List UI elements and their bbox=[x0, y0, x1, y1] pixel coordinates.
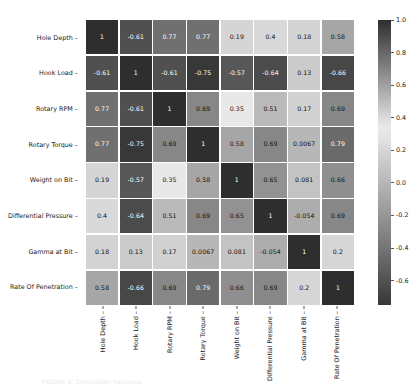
heatmap-cell: 0.18 bbox=[288, 20, 320, 54]
colorbar-tick: -0.2 bbox=[391, 211, 408, 219]
heatmap-cell: 0.69 bbox=[254, 127, 286, 161]
x-axis-tick: Gamma at Bit – bbox=[287, 306, 321, 374]
x-axis-tick-mark bbox=[102, 306, 103, 309]
x-axis-tick-mark bbox=[270, 306, 271, 309]
heatmap-cell: 0.79 bbox=[187, 271, 219, 305]
heatmap-cell: 0.69 bbox=[153, 271, 185, 305]
heatmap-cell: -0.64 bbox=[254, 56, 286, 90]
colorbar-tick-mark bbox=[391, 215, 394, 216]
colorbar-tick-mark bbox=[391, 117, 394, 118]
heatmap-cell: 0.66 bbox=[221, 271, 253, 305]
y-axis-tick-label: Rotary RPM – bbox=[0, 91, 80, 127]
y-axis-tick-label: Rate Of Penetration – bbox=[0, 269, 80, 305]
x-axis-tick-label: Hook Load – bbox=[132, 311, 140, 350]
heatmap-cell: -0.61 bbox=[120, 92, 152, 126]
colorbar-tick-label: -0.2 bbox=[396, 211, 408, 219]
heatmap-cell: 0.18 bbox=[86, 235, 118, 269]
colorbar-tick-label: 0.0 bbox=[396, 179, 406, 187]
heatmap-cell: 0.51 bbox=[254, 92, 286, 126]
colorbar: 1.00.80.60.40.20.0-0.2-0.4-0.6 bbox=[378, 20, 391, 305]
colorbar-tick: -0.6 bbox=[391, 277, 408, 285]
heatmap-cell: 0.17 bbox=[288, 92, 320, 126]
heatmap-cell: 0.2 bbox=[322, 235, 354, 269]
colorbar-tick-label: -0.4 bbox=[396, 244, 408, 252]
heatmap-cell: 0.79 bbox=[322, 127, 354, 161]
heatmap-cell: 0.58 bbox=[187, 163, 219, 197]
colorbar-tick: 0.2 bbox=[391, 146, 406, 154]
colorbar-tick: 0.0 bbox=[391, 179, 406, 187]
y-axis-labels: Hole Depth –Hook Load –Rotary RPM –Rotar… bbox=[0, 20, 80, 305]
x-axis-tick-label: Gamma at Bit – bbox=[300, 311, 308, 361]
x-axis-tick: Hole Depth – bbox=[86, 306, 120, 374]
heatmap-cell: 1 bbox=[120, 56, 152, 90]
heatmap-cell: -0.75 bbox=[187, 56, 219, 90]
heatmap-cell: 0.19 bbox=[221, 20, 253, 54]
heatmap-cell: 0.081 bbox=[288, 163, 320, 197]
colorbar-tick: -0.4 bbox=[391, 244, 408, 252]
heatmap-cell: 0.77 bbox=[187, 20, 219, 54]
heatmap-cell: 0.58 bbox=[322, 20, 354, 54]
colorbar-tick: 0.4 bbox=[391, 114, 406, 122]
heatmap-cell: 1 bbox=[187, 127, 219, 161]
x-axis-tick-label: Rotary Torque – bbox=[199, 311, 207, 360]
heatmap-cell: -0.61 bbox=[153, 56, 185, 90]
heatmap-cell: 0.51 bbox=[153, 199, 185, 233]
colorbar-tick-label: 0.2 bbox=[396, 146, 406, 154]
heatmap-grid: 1-0.610.770.770.190.40.180.58-0.611-0.61… bbox=[86, 20, 354, 305]
heatmap-cell: 1 bbox=[288, 235, 320, 269]
heatmap-cell: -0.75 bbox=[120, 127, 152, 161]
heatmap-cell: 0.69 bbox=[322, 199, 354, 233]
heatmap-cell: 1 bbox=[221, 163, 253, 197]
y-axis-tick-label: Hole Depth – bbox=[0, 20, 80, 56]
x-axis-tick-mark bbox=[303, 306, 304, 309]
y-axis-tick-label: Hook Load – bbox=[0, 56, 80, 92]
colorbar-tick-label: 0.4 bbox=[396, 114, 406, 122]
x-axis-tick-mark bbox=[337, 306, 338, 309]
colorbar-tick-mark bbox=[391, 182, 394, 183]
heatmap-cell: -0.57 bbox=[221, 56, 253, 90]
x-axis-tick-label: Rotary RPM – bbox=[166, 311, 174, 353]
colorbar-tick-label: 0.8 bbox=[396, 49, 406, 57]
heatmap-cell: -0.66 bbox=[120, 271, 152, 305]
x-axis-tick-mark bbox=[236, 306, 237, 309]
heatmap-cell: 0.19 bbox=[86, 163, 118, 197]
x-axis-tick: Rotary Torque – bbox=[187, 306, 221, 374]
heatmap-cell: 0.77 bbox=[153, 20, 185, 54]
x-axis-tick: Rate Of Penetration – bbox=[321, 306, 355, 374]
y-axis-tick-label: Gamma at Bit – bbox=[0, 234, 80, 270]
heatmap-cell: 0.2 bbox=[288, 271, 320, 305]
heatmap-cell: -0.054 bbox=[288, 199, 320, 233]
heatmap-cell: 0.13 bbox=[288, 56, 320, 90]
heatmap-cell: 0.4 bbox=[254, 20, 286, 54]
colorbar-gradient bbox=[378, 20, 391, 305]
heatmap-cell: 0.4 bbox=[86, 199, 118, 233]
heatmap-cell: 0.77 bbox=[86, 127, 118, 161]
y-axis-tick-label: Differential Pressure – bbox=[0, 198, 80, 234]
x-axis-tick-label: Rate Of Penetration – bbox=[333, 311, 341, 379]
x-axis-tick-mark bbox=[169, 306, 170, 309]
heatmap-cell: 1 bbox=[153, 92, 185, 126]
heatmap-cell: -0.66 bbox=[322, 56, 354, 90]
colorbar-tick-label: -0.6 bbox=[396, 277, 408, 285]
heatmap-cell: 0.77 bbox=[86, 92, 118, 126]
x-axis-tick-mark bbox=[203, 306, 204, 309]
colorbar-tick: 0.6 bbox=[391, 81, 406, 89]
heatmap-cell: 0.0067 bbox=[288, 127, 320, 161]
heatmap-cell: 0.69 bbox=[187, 199, 219, 233]
heatmap-cell: -0.054 bbox=[254, 235, 286, 269]
x-axis-tick: Hook Load – bbox=[120, 306, 154, 374]
x-axis-tick-label: Hole Depth – bbox=[99, 311, 107, 352]
heatmap-cell: 0.69 bbox=[322, 92, 354, 126]
x-axis-tick: Rotary RPM – bbox=[153, 306, 187, 374]
heatmap-cell: -0.57 bbox=[120, 163, 152, 197]
heatmap-cell: 0.13 bbox=[120, 235, 152, 269]
correlation-heatmap-figure: Hole Depth –Hook Load –Rotary RPM –Rotar… bbox=[0, 0, 418, 392]
heatmap-cell: 0.58 bbox=[221, 127, 253, 161]
colorbar-tick: 1.0 bbox=[391, 16, 406, 24]
x-axis-labels: Hole Depth –Hook Load –Rotary RPM –Rotar… bbox=[86, 306, 354, 374]
heatmap-cell: -0.61 bbox=[120, 20, 152, 54]
x-axis-tick: Differential Pressure – bbox=[254, 306, 288, 374]
heatmap-cell: 0.69 bbox=[254, 271, 286, 305]
x-axis-tick-label: Weight on Bit – bbox=[233, 311, 241, 359]
heatmap-cell: 0.17 bbox=[153, 235, 185, 269]
